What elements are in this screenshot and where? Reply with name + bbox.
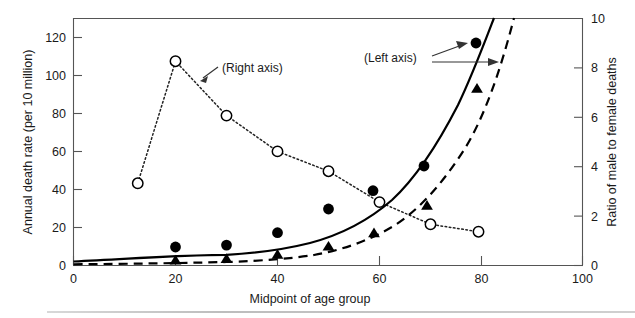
x-tick-label-80: 80 (475, 272, 489, 286)
male-point-80 (471, 38, 482, 49)
bottom-axis-ticks: 0 20 40 60 80 100 (70, 256, 593, 286)
right-axis-arrow-shaft (203, 67, 218, 78)
right-axis-annotation-text: (Right axis) (222, 61, 283, 75)
figure-container: 0 20 40 60 80 100 120 0 2 4 6 8 10 (0, 0, 635, 318)
male-point-20 (170, 242, 181, 253)
annotation-right-axis: (Right axis) (200, 61, 283, 83)
right-axis-ticks: 0 2 4 6 8 10 (574, 12, 605, 273)
ratio-point-30 (221, 110, 231, 120)
male-point-30 (221, 240, 232, 251)
y2-axis-title: Ratio of male to female deaths (605, 57, 619, 227)
y-axis-title: Annual death rate (per 10 million) (21, 50, 35, 235)
male-point-70 (419, 161, 430, 172)
male-point-50 (323, 204, 334, 215)
x-tick-label-0: 0 (70, 272, 77, 286)
left-tick-label-60: 60 (52, 145, 66, 159)
left-tick-label-0: 0 (59, 259, 66, 273)
left-tick-label-40: 40 (52, 183, 66, 197)
ratio-point-70 (425, 219, 435, 229)
right-tick-label-0: 0 (591, 259, 598, 273)
death-rate-ratio-chart: 0 20 40 60 80 100 120 0 2 4 6 8 10 (0, 0, 635, 318)
right-tick-label-2: 2 (591, 210, 598, 224)
figure-bottom-rule (47, 311, 635, 313)
female-point-60 (368, 228, 380, 238)
x-axis-title: Midpoint of age group (250, 292, 371, 306)
x-tick-label-20: 20 (169, 272, 183, 286)
left-tick-label-80: 80 (52, 107, 66, 121)
right-tick-label-8: 8 (591, 61, 598, 75)
female-fitted-curve (74, 18, 515, 264)
left-axis-arrow1-shaft (432, 45, 462, 56)
ratio-point-50 (323, 166, 333, 176)
ratio-point-12 (133, 178, 143, 188)
right-tick-label-4: 4 (591, 160, 598, 174)
left-axis-ticks: 0 20 40 60 80 100 120 (45, 31, 82, 273)
x-tick-label-60: 60 (373, 272, 387, 286)
female-point-50 (323, 241, 335, 251)
female-point-80 (471, 83, 483, 93)
axes-frame (73, 18, 583, 266)
ratio-point-60 (374, 197, 384, 207)
ratio-point-40 (272, 146, 282, 156)
left-axis-arrow2-head (488, 58, 499, 66)
left-tick-label-120: 120 (45, 31, 66, 45)
ratio-point-20 (170, 56, 180, 66)
right-tick-label-6: 6 (591, 111, 598, 125)
male-point-60 (368, 185, 379, 196)
left-axis-annotation-text: (Left axis) (364, 51, 417, 65)
series-ratio-male-to-female (133, 56, 484, 237)
x-tick-label-40: 40 (271, 272, 285, 286)
left-tick-label-20: 20 (52, 221, 66, 235)
male-point-40 (272, 227, 283, 238)
right-tick-label-10: 10 (591, 12, 605, 26)
ratio-point-80 (473, 227, 483, 237)
x-tick-label-100: 100 (572, 272, 593, 286)
left-axis-arrow1-head (456, 41, 468, 49)
left-tick-label-100: 100 (45, 69, 66, 83)
